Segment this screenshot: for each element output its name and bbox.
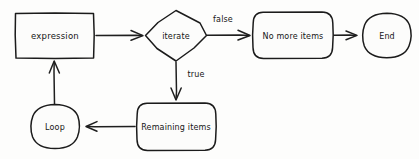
node-label-expression: expression [31,31,79,41]
node-expression[interactable]: expression [15,13,94,59]
node-remaining-items[interactable]: Remaining items [137,103,217,151]
node-label-iterate: iterate [162,32,190,41]
edge-iterate-to-no-more-items: false [207,15,250,41]
edge-no-more-items-to-end [334,31,357,40]
node-end[interactable]: End [363,13,412,58]
node-label-remaining-items: Remaining items [141,123,211,132]
node-label-loop: Loop [45,123,65,132]
edge-expression-to-iterate [96,31,143,41]
node-iterate[interactable]: iterate [146,11,207,62]
node-no-more-items[interactable]: No more items [253,12,334,59]
edge-iterate-to-remaining-items: true [171,62,205,100]
flowchart-canvas: false true expression [0,0,419,159]
node-loop[interactable]: Loop [31,105,80,149]
node-label-no-more-items: No more items [263,32,324,41]
edge-remaining-items-to-loop [86,122,135,132]
node-label-end: End [379,32,395,41]
flowchart-svg: false true expression [0,0,419,159]
edge-label-false: false [213,15,233,24]
edge-loop-to-expression [49,61,59,104]
edge-label-true: true [187,70,204,79]
